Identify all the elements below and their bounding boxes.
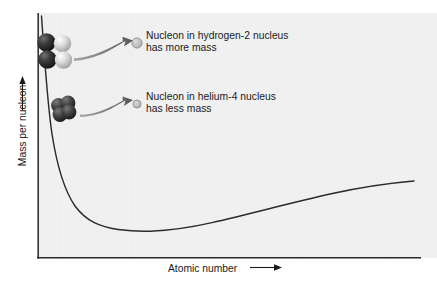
mass-per-nucleon-chart bbox=[0, 0, 437, 284]
nucleon-marker-helium bbox=[133, 100, 141, 108]
helium-4-nucleus-illustration bbox=[51, 96, 76, 122]
nucleon-marker-hydrogen bbox=[132, 38, 142, 48]
